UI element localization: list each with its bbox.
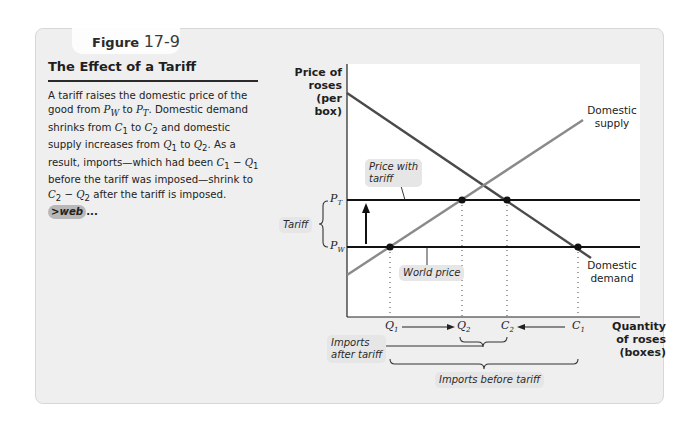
tick-pw: PW (330, 239, 345, 254)
y-axis-label: Price ofroses(per box) (294, 66, 342, 118)
tariff-callout: Tariff (279, 217, 312, 233)
point-c1 (574, 243, 581, 250)
tick-c2: C2 (501, 319, 514, 334)
tick-q2: Q2 (457, 319, 471, 334)
price-with-tariff-callout: Price withtariff (365, 159, 422, 187)
tariff-arrowhead-icon (362, 203, 370, 213)
point-c2 (503, 196, 510, 203)
tick-c1: C1 (572, 319, 585, 334)
demand-arrowhead-icon (517, 324, 525, 330)
imports-before-brace-icon (390, 359, 578, 369)
supply-arrowhead-icon (447, 324, 455, 330)
imports-before-callout: Imports before tariff (435, 372, 544, 388)
world-price-callout: World price (399, 265, 464, 281)
x-axis-label: Quantityof roses(boxes) (606, 320, 666, 359)
tariff-brace-icon (319, 201, 328, 247)
price-with-tariff-leader (401, 186, 405, 200)
supply-label: Domesticsupply (577, 104, 647, 130)
tick-pt: PT (330, 192, 342, 207)
demand-label: Domesticdemand (577, 259, 647, 285)
supply-curve (347, 120, 583, 275)
point-q2 (458, 196, 465, 203)
imports-after-callout: Importsafter tariff (327, 335, 386, 363)
tick-q1: Q1 (385, 319, 399, 334)
point-q1 (386, 243, 393, 250)
